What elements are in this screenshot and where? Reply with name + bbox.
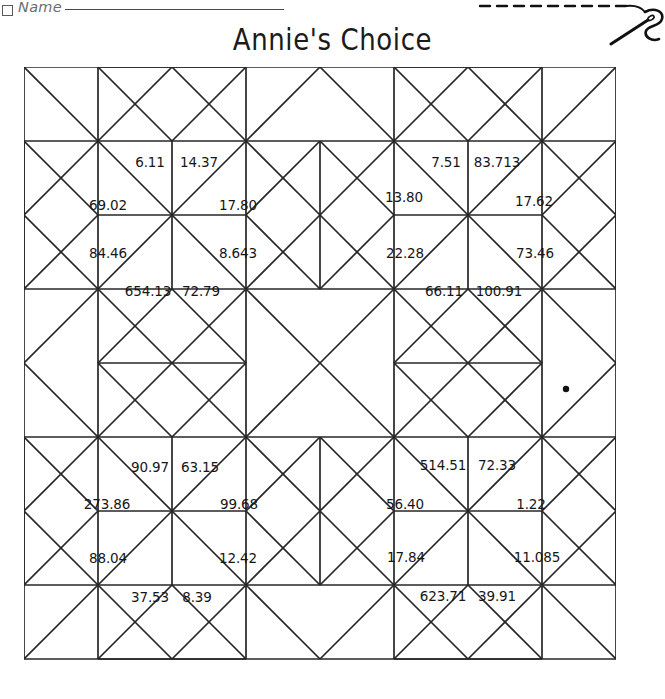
needle-and-thread-icon	[478, 0, 665, 46]
quilt-number-bottom-right-bottom-left: 623.71	[420, 590, 467, 604]
quilt-number-bottom-left-left-upper: 273.86	[84, 498, 131, 512]
quilt-number-top-right-left-lower: 22.28	[386, 247, 424, 261]
quilt-number-top-left-bottom-left: 654.13	[125, 285, 172, 299]
quilt-number-top-left-top-right: 14.37	[180, 156, 218, 170]
quilt-number-bottom-left-right-lower: 12.42	[219, 552, 257, 566]
quilt-piecing-lines	[24, 67, 616, 659]
name-write-in-line[interactable]	[65, 9, 284, 10]
quilt-number-top-right-left-upper: 13.80	[385, 191, 423, 205]
quilt-number-bottom-right-right-lower: 11.085	[514, 551, 561, 565]
quilt-number-top-left-bottom-right: 72.79	[182, 285, 220, 299]
quilt-number-bottom-left-bottom-right: 8.39	[182, 591, 212, 605]
quilt-number-top-right-right-lower: 73.46	[516, 247, 554, 261]
quilt-number-bottom-left-bottom-left: 37.53	[131, 591, 169, 605]
quilt-number-top-right-bottom-right: 100.91	[476, 285, 523, 299]
quilt-number-bottom-left-top-right: 63.15	[181, 461, 219, 475]
quilt-number-top-right-bottom-left: 66.11	[425, 285, 463, 299]
quilt-pattern	[24, 67, 616, 686]
worksheet-header: Name Annie's Choice	[0, 0, 665, 62]
quilt-number-bottom-right-bottom-right: 39.91	[478, 590, 516, 604]
ink-dot-mark	[563, 386, 569, 392]
quilt-number-top-right-right-upper: 17.62	[515, 195, 553, 209]
quilt-number-top-left-right-lower: 8.643	[219, 247, 257, 261]
quilt-number-bottom-left-top-left: 90.97	[131, 461, 169, 475]
quilt-number-bottom-right-top-left: 514.51	[420, 459, 467, 473]
quilt-number-bottom-right-right-upper: 1.22	[516, 498, 546, 512]
quilt-number-top-left-left-lower: 84.46	[89, 247, 127, 261]
quilt-number-top-left-right-upper: 17.80	[219, 199, 257, 213]
checkbox-icon[interactable]	[2, 5, 13, 16]
quilt-number-bottom-left-right-upper: 99.68	[220, 498, 258, 512]
quilt-number-bottom-right-top-right: 72.33	[478, 459, 516, 473]
name-label: Name	[18, 0, 62, 15]
quilt-number-bottom-left-left-lower: 88.04	[89, 552, 127, 566]
quilt-number-top-left-top-left: 6.11	[135, 156, 165, 170]
name-field-row: Name	[2, 0, 284, 19]
quilt-number-bottom-right-left-lower: 17.84	[387, 551, 425, 565]
quilt-number-bottom-right-left-upper: 56.40	[386, 498, 424, 512]
quilt-number-top-left-left-upper: 69.02	[89, 199, 127, 213]
quilt-grid-svg	[24, 67, 616, 686]
quilt-number-top-right-top-right: 83.713	[474, 156, 521, 170]
quilt-number-top-right-top-left: 7.51	[431, 156, 461, 170]
